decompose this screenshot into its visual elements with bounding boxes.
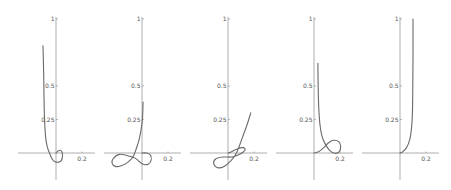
x-tick-label: 0.2 [77,155,87,162]
panel-3: 0.250.510.2 [190,15,267,180]
panel-2: 0.250.510.2 [104,15,181,180]
y-tick-label: 0.25 [213,116,227,123]
y-tick-label: 0.25 [127,116,141,123]
y-tick-label: 0.5 [303,82,313,89]
y-tick-label: 1 [309,15,313,22]
y-tick-label: 1 [51,15,55,22]
x-tick-label: 0.2 [421,155,431,162]
y-tick-label: 0.25 [299,116,313,123]
panel-1: 0.250.510.2 [18,15,95,180]
curve-line [112,102,151,167]
figure: 0.250.510.20.250.510.20.250.510.20.250.5… [0,0,451,190]
x-tick-label: 0.2 [335,155,345,162]
y-tick-label: 0.5 [131,82,141,89]
curve-line [314,63,341,153]
x-tick-label: 0.2 [249,155,259,162]
y-tick-label: 0.5 [389,82,399,89]
five-panel-curve-plot: 0.250.510.20.250.510.20.250.510.20.250.5… [0,0,451,190]
y-tick-label: 0.5 [217,82,227,89]
y-tick-label: 1 [223,15,227,22]
x-tick-label: 0.2 [163,155,173,162]
panel-5: 0.250.510.2 [362,15,439,180]
y-tick-label: 0.25 [41,116,55,123]
panel-4: 0.250.510.2 [276,15,353,180]
y-tick-label: 0.25 [385,116,399,123]
y-tick-label: 0.5 [45,82,55,89]
y-tick-label: 1 [137,15,141,22]
y-tick-label: 1 [395,15,399,22]
curve-line [43,46,63,162]
